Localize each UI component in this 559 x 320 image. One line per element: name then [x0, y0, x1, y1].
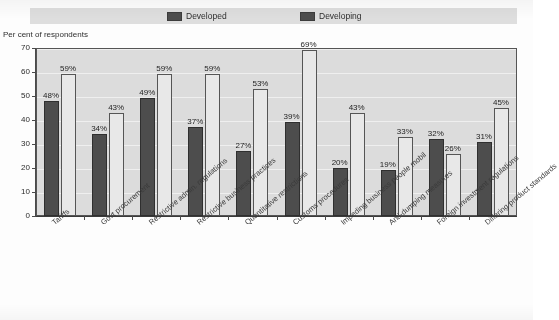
- bar-developing: [253, 89, 268, 216]
- bar-value-label: 48%: [43, 92, 59, 100]
- bar-developing: [157, 74, 172, 216]
- y-tick-mark: [32, 168, 36, 169]
- bar-value-label: 59%: [156, 65, 172, 73]
- y-tick-label: 10: [14, 188, 30, 196]
- bar-value-label: 43%: [108, 104, 124, 112]
- y-tick-mark: [32, 120, 36, 121]
- y-tick-label: 30: [14, 140, 30, 148]
- bar-value-label: 20%: [332, 159, 348, 167]
- bar-developing: [205, 74, 220, 216]
- y-tick-mark: [32, 216, 36, 217]
- bar-developed: [140, 98, 155, 216]
- y-tick-label: 40: [14, 116, 30, 124]
- x-group-separator: [325, 216, 326, 220]
- bar-value-label: 19%: [380, 161, 396, 169]
- bar-developed: [44, 101, 59, 216]
- y-tick-mark: [32, 48, 36, 49]
- bar-value-label: 37%: [187, 118, 203, 126]
- bar-value-label: 43%: [349, 104, 365, 112]
- y-tick-label: 50: [14, 92, 30, 100]
- bar-value-label: 45%: [493, 99, 509, 107]
- bar-value-label: 39%: [284, 113, 300, 121]
- x-group-separator: [84, 216, 85, 220]
- bar-value-label: 31%: [476, 133, 492, 141]
- x-group-separator: [132, 216, 133, 220]
- bar-value-label: 69%: [301, 41, 317, 49]
- gridline: [37, 49, 516, 50]
- x-group-separator: [373, 216, 374, 220]
- bar-value-label: 59%: [204, 65, 220, 73]
- bar-value-label: 59%: [60, 65, 76, 73]
- bar-developed: [188, 127, 203, 216]
- x-group-separator: [180, 216, 181, 220]
- y-tick-label: 60: [14, 68, 30, 76]
- bar-value-label: 27%: [235, 142, 251, 150]
- bar-value-label: 34%: [91, 125, 107, 133]
- gridline: [37, 97, 516, 98]
- x-group-separator: [228, 216, 229, 220]
- x-group-separator: [277, 216, 278, 220]
- bar-developing: [61, 74, 76, 216]
- bar-value-label: 49%: [139, 89, 155, 97]
- y-tick-label: 70: [14, 44, 30, 52]
- y-tick-mark: [32, 144, 36, 145]
- bar-value-label: 53%: [252, 80, 268, 88]
- y-tick-mark: [32, 72, 36, 73]
- y-tick-mark: [32, 192, 36, 193]
- bar-value-label: 33%: [397, 128, 413, 136]
- bar-developing: [302, 50, 317, 216]
- bar-value-label: 32%: [428, 130, 444, 138]
- x-group-separator: [469, 216, 470, 220]
- bar-developed: [92, 134, 107, 216]
- y-tick-mark: [32, 96, 36, 97]
- x-group-separator: [421, 216, 422, 220]
- bar-value-label: 26%: [445, 145, 461, 153]
- y-tick-label: 20: [14, 164, 30, 172]
- bar-developed: [285, 122, 300, 216]
- gridline: [37, 73, 516, 74]
- y-tick-label: 0: [14, 212, 30, 220]
